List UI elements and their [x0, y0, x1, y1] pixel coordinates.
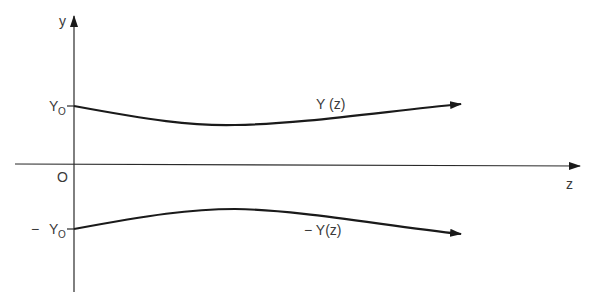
y-axis-label: y	[59, 13, 66, 29]
beam-envelope-diagram: y z O Y O − Y O Y (z) − Y(z)	[0, 0, 595, 304]
y0-label: Y O	[49, 98, 66, 117]
y0-label-sub: O	[58, 106, 66, 117]
lower-envelope-curve	[74, 209, 461, 234]
minus-y0-label-prefix: −	[31, 221, 39, 237]
upper-curve-label: Y (z)	[316, 96, 345, 112]
upper-envelope-curve	[74, 104, 461, 125]
minus-y0-label: − Y O	[31, 221, 66, 240]
z-axis	[15, 164, 580, 166]
lower-curve-label: − Y(z)	[304, 222, 341, 238]
minus-y0-label-sub: O	[58, 229, 66, 240]
origin-label: O	[57, 169, 68, 185]
z-axis-label: z	[566, 176, 573, 192]
